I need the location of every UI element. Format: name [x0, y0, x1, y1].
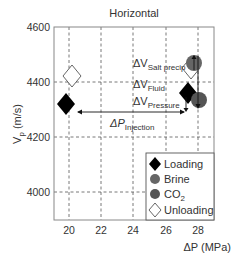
annotation-dv-salt: ΔVSalt precip — [133, 57, 186, 72]
chart: Horizontal 4600 4400 4200 4000 Vp (m/s) … — [0, 0, 235, 260]
legend-co2-icon — [150, 189, 160, 199]
y-tick-4000: 4000 — [27, 186, 51, 198]
x-tick-24: 24 — [127, 224, 139, 236]
y-tick-4600: 4600 — [27, 21, 51, 33]
y-axis: 4600 4400 4200 4000 Vp (m/s) — [11, 21, 50, 198]
legend-unloading-label: Unloading — [164, 204, 214, 216]
annotation-dp-injection: ΔPInjection — [109, 117, 155, 132]
x-tick-20: 20 — [63, 224, 75, 236]
y-axis-label: Vp (m/s) — [11, 104, 26, 144]
annotation-dv-fluid: ΔVFluid — [133, 78, 165, 93]
loading-point — [57, 93, 75, 115]
legend-brine-label: Brine — [164, 173, 190, 185]
y-tick-4200: 4200 — [27, 131, 51, 143]
legend-brine-icon — [150, 174, 160, 184]
chart-title: Horizontal — [109, 7, 159, 19]
x-tick-28: 28 — [192, 224, 204, 236]
annotation-dv-pressure: ΔVPressure — [133, 95, 180, 110]
x-axis: 20 22 24 26 28 ΔP (MPa) — [63, 224, 231, 253]
legend-loading-label: Loading — [164, 158, 203, 170]
x-tick-26: 26 — [160, 224, 172, 236]
y-tick-4400: 4400 — [27, 76, 51, 88]
x-axis-label: ΔP (MPa) — [184, 241, 232, 253]
x-tick-22: 22 — [95, 224, 107, 236]
legend: Loading Brine CO2 Unloading — [146, 153, 214, 220]
unloading-point — [63, 65, 81, 87]
